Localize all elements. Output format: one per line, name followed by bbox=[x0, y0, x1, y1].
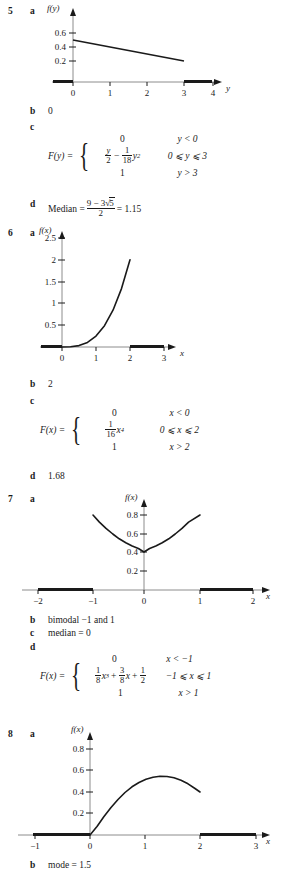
answer-6b: 2 bbox=[48, 379, 53, 389]
case-expr-6c-1: 0 bbox=[85, 408, 143, 418]
xtick-q6a-3: 3 bbox=[154, 353, 174, 363]
median-denominator-5d: 2 bbox=[87, 208, 115, 218]
piecewise-6c: F(x) = { 0 x < 0 116 x4 0 ⩽ x ⩽ 2 1 x > … bbox=[40, 404, 215, 455]
case-cond-5c-2: 0 ⩽ y ⩽ 3 bbox=[151, 150, 223, 161]
case-cond-5c-1: y < 0 bbox=[151, 134, 223, 144]
xtick-q7a-1: −1 bbox=[83, 596, 103, 606]
ytick-q5a-1: 0.2 bbox=[40, 56, 66, 66]
part-label-7b: b bbox=[30, 615, 35, 625]
answer-5b: 0 bbox=[48, 106, 53, 116]
median-equals-5d: = 1.15 bbox=[117, 204, 141, 214]
part-label-6d: d bbox=[30, 471, 35, 481]
plot-svg-q6a bbox=[0, 222, 281, 362]
median-fraction-5d: 9 − 3√5 2 bbox=[87, 199, 115, 219]
case-expr-6c-2: 116 x4 bbox=[85, 420, 143, 438]
left-brace-5c: { bbox=[79, 141, 89, 170]
graph-q7a: f(x) 0.8 0.6 0.4 0.2 −2 −1 bbox=[0, 490, 281, 618]
answer-6d: 1.68 bbox=[48, 471, 65, 481]
xtick-q8a-0: −1 bbox=[25, 841, 45, 851]
xtick-q8a-2: 1 bbox=[135, 841, 155, 851]
xtick-q5a-3: 3 bbox=[174, 88, 194, 98]
case-expr-6c-3: 1 bbox=[85, 442, 143, 452]
answer-8b: mode = 1.5 bbox=[48, 860, 91, 870]
x-axis-title-q6a: x bbox=[180, 348, 184, 358]
ytick-q5a-3: 0.6 bbox=[40, 28, 66, 38]
case-cond-6c-2: 0 ⩽ x ⩽ 2 bbox=[143, 424, 215, 435]
fraction-1-over-8: 18 bbox=[95, 666, 101, 684]
case-cond-7d-2: −1 ⩽ x ⩽ 1 bbox=[155, 670, 221, 681]
case-expr-5c-2: y2 − 118 y2 bbox=[93, 146, 151, 164]
case-row: 116 x4 0 ⩽ x ⩽ 2 bbox=[85, 421, 215, 438]
left-brace-6c: { bbox=[71, 415, 81, 444]
answer-7c: median = 0 bbox=[48, 628, 91, 638]
fraction-3-over-8: 38 bbox=[119, 666, 125, 684]
xtick-q8a-3: 2 bbox=[190, 841, 210, 851]
ytick-q6a-3: 1.5 bbox=[28, 277, 56, 287]
xtick-q7a-0: −2 bbox=[28, 596, 48, 606]
ytick-q6a-2: 1 bbox=[28, 298, 56, 308]
ytick-q6a-1: 0.5 bbox=[28, 320, 56, 330]
ytick-q6a-4: 2 bbox=[28, 255, 56, 265]
case-expr-7d-3: 1 bbox=[85, 688, 155, 698]
median-numerator-5d: 9 − 3√5 bbox=[87, 199, 115, 208]
xtick-q8a-4: 3 bbox=[246, 841, 266, 851]
case-cond-7d-3: x > 1 bbox=[155, 688, 221, 698]
part-label-5d: d bbox=[30, 199, 35, 209]
x-axis-title-q8a: x bbox=[266, 836, 270, 846]
xtick-q7a-4: 2 bbox=[243, 596, 263, 606]
function-name-5c: F(y) = bbox=[48, 151, 73, 161]
function-name-7d: F(x) = bbox=[40, 671, 65, 681]
ytick-q7a-3: 0.6 bbox=[110, 529, 138, 539]
case-row: 1 y > 3 bbox=[93, 164, 223, 181]
fraction-1-over-16: 116 bbox=[105, 420, 116, 438]
answer-7b: bimodal −1 and 1 bbox=[48, 615, 115, 625]
ytick-q8a-3: 0.6 bbox=[56, 765, 84, 775]
x-axis-title-q5a: y bbox=[226, 83, 230, 93]
ytick-q8a-1: 0.2 bbox=[56, 808, 84, 818]
ytick-q7a-2: 0.4 bbox=[110, 547, 138, 557]
part-label-6b: b bbox=[30, 379, 35, 389]
graph-q5a: f(y) 0.6 0.4 0.2 0 1 bbox=[0, 0, 281, 100]
piecewise-5c: F(y) = { 0 y < 0 y2 − 118 y2 0 ⩽ y ⩽ 3 1… bbox=[48, 130, 223, 181]
case-row: 0 x < −1 bbox=[85, 650, 221, 667]
case-expr-7d-2: 18 x3 + 38 x + 12 bbox=[85, 666, 155, 684]
answer-5d: Median = 9 − 3√5 2 = 1.15 bbox=[48, 199, 141, 219]
median-label-5d: Median = bbox=[48, 204, 85, 214]
part-label-6c: c bbox=[30, 396, 34, 406]
xtick-q7a-3: 1 bbox=[190, 596, 210, 606]
left-brace-7d: { bbox=[71, 661, 81, 690]
graph-q8a: f(x) 0.8 0.6 0.4 0.2 −1 0 bbox=[0, 722, 281, 857]
case-expr-7d-1: 0 bbox=[85, 654, 143, 664]
plot-svg-q8a bbox=[0, 722, 281, 857]
case-cond-6c-1: x < 0 bbox=[143, 408, 215, 418]
part-label-7d: d bbox=[30, 642, 35, 652]
fraction-y-over-2: y2 bbox=[105, 146, 111, 164]
part-label-7c: c bbox=[30, 628, 34, 638]
xtick-q5a-2: 2 bbox=[137, 88, 157, 98]
piecewise-7d: F(x) = { 0 x < −1 18 x3 + 38 x + 12 −1 ⩽… bbox=[40, 650, 221, 701]
ytick-q8a-4: 0.8 bbox=[56, 744, 84, 754]
fraction-1-over-18: 118 bbox=[122, 146, 133, 164]
case-expr-5c-3: 1 bbox=[93, 168, 151, 178]
x-axis-title-q7a: x bbox=[266, 591, 270, 601]
ytick-q5a-2: 0.4 bbox=[40, 42, 66, 52]
xtick-q7a-2: 0 bbox=[134, 596, 154, 606]
case-row: 0 x < 0 bbox=[85, 404, 215, 421]
case-cond-7d-1: x < −1 bbox=[143, 654, 215, 664]
case-row: 1 x > 1 bbox=[85, 684, 221, 701]
case-row: y2 − 118 y2 0 ⩽ y ⩽ 3 bbox=[93, 147, 223, 164]
part-label-8b: b bbox=[30, 860, 35, 870]
answers-page: 5 a f(y) 0.6 0.4 0 bbox=[0, 0, 281, 872]
ytick-q6a-5: 2.5 bbox=[28, 233, 56, 243]
ytick-q7a-4: 0.8 bbox=[110, 510, 138, 520]
xtick-q6a-0: 0 bbox=[52, 353, 72, 363]
xtick-q5a-4: 4 bbox=[203, 88, 223, 98]
xtick-q5a-1: 1 bbox=[100, 88, 120, 98]
case-row: 18 x3 + 38 x + 12 −1 ⩽ x ⩽ 1 bbox=[85, 667, 221, 684]
xtick-q6a-1: 1 bbox=[86, 353, 106, 363]
case-cond-5c-3: y > 3 bbox=[151, 168, 223, 178]
graph-q6a: f(x) 2.5 2 1.5 1 0.5 0 bbox=[0, 222, 281, 362]
part-label-5b: b bbox=[30, 106, 35, 116]
xtick-q8a-1: 0 bbox=[80, 841, 100, 851]
ytick-q7a-1: 0.2 bbox=[110, 566, 138, 576]
